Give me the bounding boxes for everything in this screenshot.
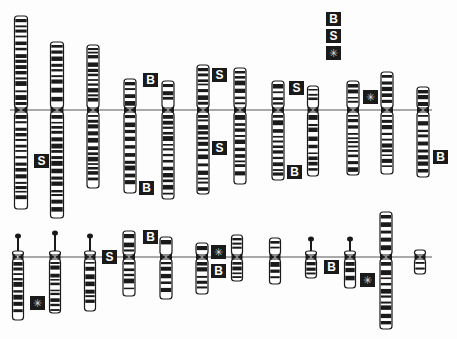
- chromosome: [381, 72, 393, 174]
- legend-marker-b: B: [326, 12, 341, 26]
- marker-b: B: [211, 264, 226, 278]
- chromosome: [50, 231, 61, 314]
- marker-b: B: [139, 181, 154, 195]
- chromosome: [415, 250, 426, 274]
- marker-asterisk: ✳: [211, 245, 226, 259]
- chromosome: [15, 16, 28, 209]
- chromosome: [85, 234, 96, 312]
- karyotype-diagram: BS✳ BBSSSSB✳B✳SB✳BB✳: [0, 0, 457, 339]
- chromosome-ideogram-canvas: [0, 0, 457, 339]
- legend-marker-s: S: [326, 29, 341, 43]
- chromosome: [232, 235, 243, 281]
- marker-s: S: [289, 81, 304, 95]
- legend-marker-asterisk: ✳: [326, 46, 341, 60]
- marker-s: S: [102, 250, 117, 264]
- marker-asterisk: ✳: [360, 273, 375, 287]
- marker-asterisk: ✳: [363, 90, 378, 104]
- marker-b: B: [324, 260, 339, 274]
- marker-s: S: [212, 68, 227, 82]
- chromosome: [196, 243, 208, 294]
- marker-b: B: [143, 73, 158, 87]
- chromosome: [347, 81, 359, 175]
- marker-b: B: [433, 150, 448, 164]
- chromosome: [380, 212, 392, 329]
- chromosome: [87, 45, 99, 188]
- chromosome: [417, 87, 429, 177]
- marker-b: B: [287, 165, 302, 179]
- chromosome: [270, 238, 281, 284]
- chromosome: [13, 234, 24, 321]
- marker-b: B: [143, 230, 158, 244]
- chromosome: [51, 42, 64, 218]
- marker-s: S: [34, 154, 49, 168]
- marker-asterisk: ✳: [30, 296, 45, 310]
- chromosome: [345, 237, 356, 289]
- chromosome: [160, 237, 172, 299]
- chromosome: [272, 81, 284, 180]
- chromosome: [308, 86, 319, 176]
- marker-s: S: [212, 141, 227, 155]
- chromosome: [123, 231, 135, 296]
- chromosome: [197, 65, 209, 194]
- chromosome: [162, 81, 174, 199]
- chromosome: [234, 68, 246, 184]
- chromosome: [124, 79, 136, 193]
